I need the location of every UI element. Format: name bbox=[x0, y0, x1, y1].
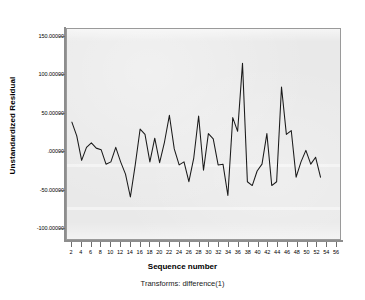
x-axis-tick-mark bbox=[110, 242, 111, 247]
x-axis-tick-mark bbox=[208, 242, 209, 247]
x-axis-tick-label: 34 bbox=[225, 249, 231, 255]
x-axis-tick-mark bbox=[199, 242, 200, 247]
x-axis-tick-mark bbox=[297, 242, 298, 247]
x-axis-tick-label: 52 bbox=[313, 249, 319, 255]
x-axis-tick-mark bbox=[140, 242, 141, 247]
x-axis-tick-mark bbox=[228, 242, 229, 247]
x-axis-tick-mark bbox=[71, 242, 72, 247]
x-axis-tick-mark bbox=[277, 242, 278, 247]
x-axis-tick-label: 40 bbox=[254, 249, 260, 255]
x-axis-tick-label: 14 bbox=[127, 249, 133, 255]
x-axis-tick-label: 28 bbox=[196, 249, 202, 255]
x-axis-tick-mark bbox=[326, 242, 327, 247]
x-axis-tick-mark bbox=[179, 242, 180, 247]
y-axis-title-text: Unstandardized Residual bbox=[9, 76, 18, 174]
x-axis-tick-label: 4 bbox=[79, 249, 82, 255]
x-axis-tick-mark bbox=[130, 242, 131, 247]
x-axis-tick-label: 8 bbox=[99, 249, 102, 255]
x-axis-tick-label: 32 bbox=[215, 249, 221, 255]
x-axis-tick-mark bbox=[159, 242, 160, 247]
x-axis-tick-label: 26 bbox=[186, 249, 192, 255]
x-axis-tick-mark bbox=[120, 242, 121, 247]
x-axis-tick-label: 2 bbox=[69, 249, 72, 255]
x-axis-tick-label: 56 bbox=[333, 249, 339, 255]
x-axis-tick-mark bbox=[287, 242, 288, 247]
x-axis-tick-mark bbox=[149, 242, 150, 247]
x-axis-tick-label: 22 bbox=[166, 249, 172, 255]
y-axis-tick-labels: 150.00000100.0000050.00000.00000-50.0000… bbox=[22, 0, 64, 250]
x-axis-tick-mark bbox=[100, 242, 101, 247]
x-axis-tick-label: 42 bbox=[264, 249, 270, 255]
x-axis-tick-label: 46 bbox=[284, 249, 290, 255]
plot-area bbox=[66, 28, 341, 240]
x-axis-spine bbox=[64, 240, 343, 242]
x-axis-tick-mark bbox=[267, 242, 268, 247]
y-axis-tick-mark bbox=[59, 151, 65, 152]
chart-footnote: Transforms: difference(1) bbox=[0, 279, 365, 288]
y-axis-tick-mark bbox=[59, 36, 65, 37]
x-axis-tick-label: 30 bbox=[205, 249, 211, 255]
x-axis-tick-label: 18 bbox=[146, 249, 152, 255]
x-axis-tick-label: 10 bbox=[107, 249, 113, 255]
y-axis-tick-mark bbox=[59, 74, 65, 75]
x-axis-tick-mark bbox=[258, 242, 259, 247]
residual-series-line bbox=[72, 63, 321, 197]
x-axis-tick-label: 6 bbox=[89, 249, 92, 255]
x-axis-title: Sequence number bbox=[0, 262, 365, 271]
x-axis-tick-mark bbox=[189, 242, 190, 247]
x-axis-tick-mark bbox=[218, 242, 219, 247]
y-axis-tick-mark bbox=[59, 190, 65, 191]
x-axis-tick-label: 44 bbox=[274, 249, 280, 255]
y-axis-tick-mark bbox=[59, 228, 65, 229]
y-axis-title: Unstandardized Residual bbox=[4, 0, 22, 250]
x-axis-tick-mark bbox=[248, 242, 249, 247]
series-line-layer bbox=[67, 29, 340, 239]
x-axis-tick-label: 20 bbox=[156, 249, 162, 255]
x-axis-tick-label: 36 bbox=[235, 249, 241, 255]
x-axis-tick-mark bbox=[316, 242, 317, 247]
x-axis-tick-label: 38 bbox=[245, 249, 251, 255]
x-axis-tick-mark bbox=[307, 242, 308, 247]
x-axis-tick-mark bbox=[91, 242, 92, 247]
x-axis-tick-mark bbox=[336, 242, 337, 247]
x-axis-tick-mark bbox=[238, 242, 239, 247]
x-axis-tick-mark bbox=[81, 242, 82, 247]
x-axis-tick-label: 16 bbox=[137, 249, 143, 255]
y-axis-tick-mark bbox=[59, 113, 65, 114]
x-axis-tick-label: 54 bbox=[323, 249, 329, 255]
x-axis-tick-label: 48 bbox=[294, 249, 300, 255]
x-axis-tick-label: 50 bbox=[304, 249, 310, 255]
residual-sequence-chart: Unstandardized Residual 150.00000100.000… bbox=[0, 0, 365, 300]
x-axis-tick-label: 12 bbox=[117, 249, 123, 255]
x-axis-tick-mark bbox=[169, 242, 170, 247]
x-axis-tick-label: 24 bbox=[176, 249, 182, 255]
